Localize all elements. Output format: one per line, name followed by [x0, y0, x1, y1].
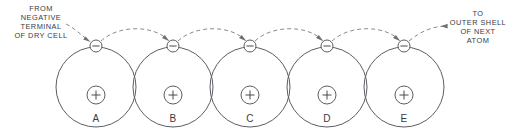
arc-b-to-c-path: [178, 29, 244, 41]
atom-label-b: B: [169, 113, 176, 124]
caption-from-negative-terminal: FROM NEGATIVE TERMINAL OF DRY CELL: [4, 4, 78, 40]
caption-right-line-2: OUTER SHELL: [443, 18, 513, 27]
atom-label-a: A: [92, 113, 99, 124]
caption-left-line-2: NEGATIVE: [4, 13, 78, 22]
atom-label-d: D: [323, 113, 331, 124]
caption-right-line-1: TO: [443, 9, 513, 18]
atom-label-e: E: [400, 113, 407, 124]
arc-a-to-b-path: [101, 29, 167, 41]
flow-arrow-group: [66, 24, 448, 42]
caption-right-line-4: ATOM: [443, 36, 513, 45]
electron-flow-diagram: A B C D: [0, 0, 513, 138]
arc-d-to-e-path: [332, 29, 398, 41]
atom-c[interactable]: C: [210, 40, 290, 127]
atom-label-c: C: [246, 113, 254, 124]
caption-to-outer-shell: TO OUTER SHELL OF NEXT ATOM: [443, 9, 513, 45]
arc-c-to-d-path: [255, 29, 321, 41]
atom-e[interactable]: E: [364, 40, 444, 127]
caption-left-line-3: TERMINAL: [4, 22, 78, 31]
atom-d[interactable]: D: [287, 40, 367, 127]
caption-left-line-4: OF DRY CELL: [4, 31, 78, 40]
atom-b[interactable]: B: [133, 40, 213, 127]
caption-left-line-1: FROM: [4, 4, 78, 13]
exit-arrow-path: [409, 26, 444, 41]
caption-right-line-3: OF NEXT: [443, 27, 513, 36]
atom-a[interactable]: A: [56, 40, 136, 127]
